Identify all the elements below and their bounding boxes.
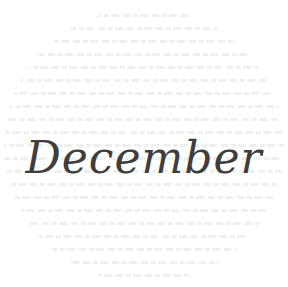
texture-line [4, 14, 284, 17]
texture-line [4, 248, 284, 251]
texture-line [4, 196, 284, 199]
texture-line [4, 209, 284, 212]
texture-line [4, 105, 284, 108]
texture-line [4, 222, 284, 225]
texture-line [4, 40, 284, 43]
texture-line [4, 27, 284, 30]
texture-line [4, 53, 284, 56]
texture-line [4, 66, 284, 69]
texture-line [4, 235, 284, 238]
month-title: December [0, 128, 288, 188]
texture-line [4, 79, 284, 82]
texture-line [4, 118, 284, 121]
texture-line [4, 261, 284, 264]
texture-line [4, 274, 284, 277]
texture-line [4, 92, 284, 95]
